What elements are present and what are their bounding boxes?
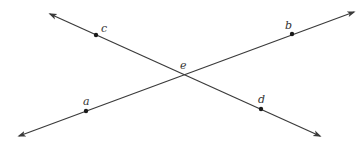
label-a: a (83, 95, 90, 108)
label-b: b (285, 19, 292, 32)
point-c (94, 33, 98, 37)
label-d: d (258, 93, 265, 106)
label-e-intersection: e (180, 59, 187, 72)
point-b (290, 32, 294, 36)
point-d (259, 107, 263, 111)
intersecting-lines-diagram: a b c d e (0, 0, 364, 149)
label-c: c (101, 22, 107, 35)
line-ab (19, 12, 354, 136)
point-a (84, 109, 88, 113)
